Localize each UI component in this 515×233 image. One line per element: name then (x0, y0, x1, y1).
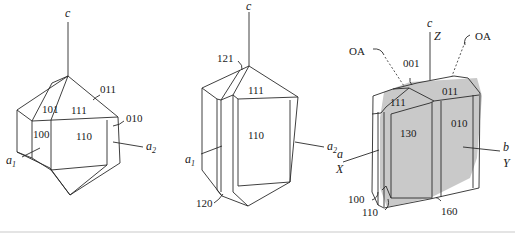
crystal-figure: c a1 a2 011 101 111 010 100 110 c a1 a2 … (0, 0, 515, 233)
a2-axis-line (113, 142, 143, 147)
face-label-110: 110 (248, 129, 265, 141)
face-label-001: 001 (403, 57, 420, 69)
lower-edge (233, 192, 248, 206)
a1-axis-line (201, 146, 222, 154)
face-label-100: 100 (33, 128, 50, 140)
axis-label-a1: a1 (185, 152, 195, 168)
lower-edge-2 (70, 165, 107, 195)
face-label-110: 110 (362, 206, 379, 218)
face-label-011: 011 (100, 83, 116, 95)
face-label-010: 010 (451, 117, 468, 129)
crystal-3: c Z OA OA a X b Y 001 111 011 130 010 10… (335, 16, 511, 218)
optic-axis-left (385, 57, 404, 86)
face-label-010: 010 (126, 112, 143, 124)
face-label-111: 111 (390, 96, 406, 108)
axis-label-a2: a2 (327, 139, 337, 155)
edge-100 (17, 121, 32, 158)
axis-label-X: X (335, 162, 344, 176)
face-label-111: 111 (71, 104, 87, 116)
a-axis-line (343, 150, 379, 162)
face-label-160: 160 (441, 205, 458, 217)
oa-arrow-right (465, 35, 470, 45)
axis-label-a1: a1 (6, 153, 16, 169)
face-label-100: 100 (348, 193, 365, 205)
optic-axis-right (452, 42, 465, 76)
leader-160 (436, 198, 441, 201)
face-label-121: 121 (217, 52, 234, 64)
crystal-1: c a1 a2 011 101 111 010 100 110 (6, 6, 156, 195)
leader-121 (238, 61, 242, 70)
face-label-111: 111 (248, 84, 264, 96)
axis-label-a2: a2 (146, 139, 156, 155)
girdle-upper (17, 110, 118, 121)
axis-label-a: a (337, 147, 343, 161)
oa-arrow-left (373, 49, 384, 55)
face-label-120: 120 (196, 197, 213, 209)
face-110-edges (51, 120, 107, 170)
axis-label-Y: Y (503, 156, 511, 170)
axis-label-c: c (427, 16, 433, 30)
optic-axis-label-right: OA (475, 30, 491, 42)
a1-axis-line (22, 148, 40, 157)
face-label-011: 011 (442, 85, 458, 97)
axis-label-Z: Z (434, 29, 441, 43)
axis-label-b: b (503, 140, 509, 154)
face-label-130: 130 (400, 127, 417, 139)
leader-120 (214, 194, 223, 203)
face-label-101: 101 (42, 103, 59, 115)
axis-label-c: c (246, 0, 252, 13)
edge-111-lower (233, 95, 298, 99)
optic-axis-label-left: OA (349, 45, 365, 57)
crystal-2: c a1 a2 121 111 110 120 (185, 0, 337, 209)
a2-axis-line (295, 142, 324, 147)
face-110-edges (238, 99, 290, 186)
axis-label-c: c (65, 6, 71, 20)
bottom-divider (0, 231, 515, 233)
face-label-110: 110 (76, 130, 93, 142)
top-edges-left (202, 66, 249, 100)
